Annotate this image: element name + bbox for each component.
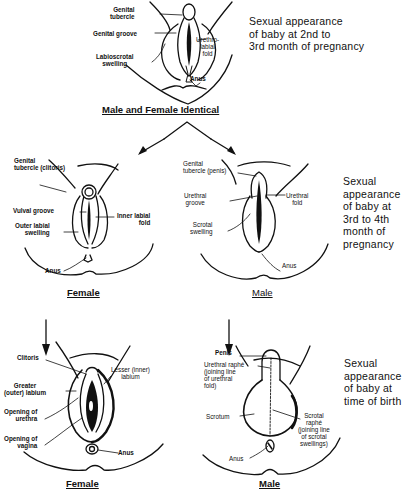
label-outer-labial-swelling: Outer labial swelling xyxy=(15,222,50,236)
stage3-female-caption: Female xyxy=(66,478,99,489)
label-genital-tubercle: Genital tubercle xyxy=(110,6,135,20)
stage2-male-caption: Male xyxy=(252,287,273,298)
label-urethral-fold: Urethral fold xyxy=(286,192,308,206)
label-scrotal-raphe: Scrotal raphé (joining line of scrotal s… xyxy=(298,412,330,447)
stage2-female-caption: Female xyxy=(67,287,100,298)
label-lesser-labium: Lesser (inner) labium xyxy=(111,366,150,380)
label-stage3-female-anus: Anus xyxy=(118,449,134,456)
label-genital-tubercle-clitoris: Genital tubercle (clitoris) xyxy=(14,157,65,171)
stage2-description: Sexual appearance of baby at 3rd to 4th … xyxy=(343,175,400,250)
stage2-male-illustration xyxy=(201,160,328,279)
stage1-description: Sexual appearance of baby at 2nd to 3rd … xyxy=(249,15,364,53)
label-urethrolabial-fold: Urethro- labial fold xyxy=(196,36,219,57)
label-opening-of-urethra: Opening of urethra xyxy=(4,408,37,422)
label-penis: Penis xyxy=(215,349,232,356)
label-genital-groove: Genital groove xyxy=(93,30,137,37)
label-urethral-groove: Urethral groove xyxy=(184,192,206,206)
label-stage2-female-anus: Anus xyxy=(45,267,61,274)
stage3-description: Sexual appearance of baby at time of bir… xyxy=(344,357,401,407)
stage3-male-caption: Male xyxy=(259,478,280,489)
label-stage3-male-anus: Anus xyxy=(229,455,243,462)
label-vulval-groove: Vulval groove xyxy=(13,207,54,214)
label-scrotum: Scrotum xyxy=(206,413,229,420)
label-stage2-male-anus: Anus xyxy=(282,262,296,269)
label-stage1-anus: Anus xyxy=(190,75,206,82)
label-labioscrotal-swelling: Labioscrotal swelling xyxy=(96,53,133,67)
label-opening-of-vagina: Opening of vagina xyxy=(4,435,37,449)
split-arrows xyxy=(140,122,234,153)
stage1-caption: Male and Female Identical xyxy=(102,104,219,115)
label-urethral-raphe: Urethral raphé (joining line of urethral… xyxy=(204,361,244,389)
label-greater-labium: Greater (outer) labium xyxy=(4,382,46,396)
label-scrotal-swelling: Scrotal swelling xyxy=(190,221,212,235)
label-genital-tubercle-penis: Genital tubercle (penis) xyxy=(183,160,226,174)
label-inner-labial-fold: Inner labial fold xyxy=(117,212,150,226)
label-clitoris: Clitoris xyxy=(17,354,39,361)
